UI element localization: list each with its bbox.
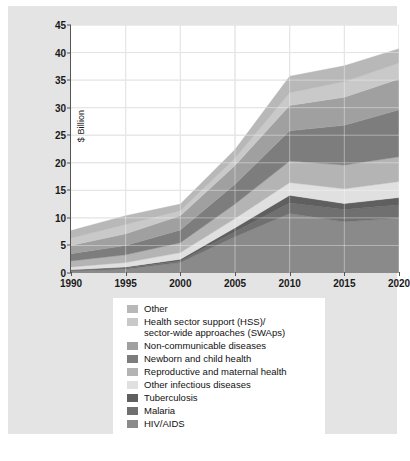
y-tick-label: 35 — [55, 75, 66, 86]
legend-swatch-icon — [127, 342, 138, 350]
legend-swatch-icon — [127, 407, 138, 415]
legend-item[interactable]: Reproductive and maternal health — [113, 365, 325, 378]
legend-item[interactable]: Tuberculosis — [113, 391, 325, 404]
legend-item-label: Newborn and child health — [144, 353, 251, 364]
legend-swatch-icon — [127, 381, 138, 389]
legend-item[interactable]: HIV/AIDS — [113, 417, 325, 430]
x-tick-mark — [290, 272, 291, 276]
y-tick-mark — [67, 245, 71, 246]
plot-area: $ Billion 051015202530354045 19901995200… — [70, 25, 398, 273]
x-tick-mark — [180, 272, 181, 276]
y-tick-label: 0 — [60, 268, 66, 279]
y-tick-mark — [67, 135, 71, 136]
y-tick-label: 5 — [60, 240, 66, 251]
y-tick-mark — [67, 162, 71, 163]
legend-item-label: Malaria — [144, 405, 175, 416]
legend-item-label: HIV/AIDS — [144, 418, 185, 429]
y-tick-label: 10 — [55, 212, 66, 223]
x-tick-label: 1995 — [115, 278, 137, 289]
y-tick-mark — [67, 217, 71, 218]
y-tick-mark — [67, 80, 71, 81]
y-tick-mark — [67, 190, 71, 191]
y-tick-label: 15 — [55, 185, 66, 196]
y-tick-label: 45 — [55, 20, 66, 31]
x-tick-mark — [399, 272, 400, 276]
x-tick-label: 2015 — [333, 278, 355, 289]
legend-swatch-icon — [127, 318, 138, 326]
legend-item[interactable]: Non-communicable diseases — [113, 339, 325, 352]
y-tick-label: 30 — [55, 102, 66, 113]
legend-item[interactable]: Newborn and child health — [113, 352, 325, 365]
legend-item-label: Tuberculosis — [144, 392, 198, 403]
legend-item-label: Other — [144, 303, 168, 314]
y-axis-title: $ Billion — [76, 86, 86, 166]
x-tick-label: 2010 — [279, 278, 301, 289]
x-tick-label: 2000 — [169, 278, 191, 289]
legend-swatch-icon — [127, 368, 138, 376]
legend-swatch-icon — [127, 420, 138, 428]
legend-item-label: Health sector support (HSS)/ sector-wide… — [144, 316, 285, 338]
x-tick-mark — [344, 272, 345, 276]
y-tick-label: 20 — [55, 157, 66, 168]
x-tick-label: 2020 — [388, 278, 410, 289]
legend-item-label: Other infectious diseases — [144, 379, 251, 390]
y-tick-label: 25 — [55, 130, 66, 141]
x-tick-mark — [71, 272, 72, 276]
legend-item[interactable]: Other — [113, 302, 325, 315]
x-tick-label: 1990 — [60, 278, 82, 289]
legend-swatch-icon — [127, 305, 138, 313]
chart-panel: $ Billion 051015202530354045 19901995200… — [8, 6, 397, 434]
y-tick-mark — [67, 25, 71, 26]
stacked-area-plot — [71, 25, 399, 273]
x-tick-label: 2005 — [224, 278, 246, 289]
legend-item-label: Non-communicable diseases — [144, 340, 266, 351]
y-tick-mark — [67, 52, 71, 53]
legend-item-label: Reproductive and maternal health — [144, 366, 287, 377]
chart-legend: OtherHealth sector support (HSS)/ sector… — [113, 298, 325, 435]
legend-item[interactable]: Other infectious diseases — [113, 378, 325, 391]
legend-item[interactable]: Health sector support (HSS)/ sector-wide… — [113, 315, 325, 339]
legend-swatch-icon — [127, 394, 138, 402]
x-tick-mark — [235, 272, 236, 276]
legend-swatch-icon — [127, 355, 138, 363]
legend-item[interactable]: Malaria — [113, 404, 325, 417]
x-tick-mark — [126, 272, 127, 276]
y-tick-label: 40 — [55, 47, 66, 58]
y-tick-mark — [67, 107, 71, 108]
